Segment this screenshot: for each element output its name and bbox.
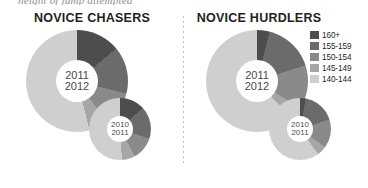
donut-center-line2: 2012 <box>65 81 89 92</box>
donut-center-line2: 2011 <box>291 129 308 137</box>
legend-item[interactable]: 140-144 <box>310 74 368 84</box>
chart-legend: 160+ 155-159 150-154 145-149 140-144 <box>310 30 368 85</box>
panel-novice-chasers: NOVICE CHASERS 2011 2012 2010 2011 <box>0 0 184 188</box>
page-title-novice-hurdlers: NOVICE HURDLERS <box>184 11 334 25</box>
donut-chart-hurdlers-2010-2011[interactable]: 2010 2011 <box>269 98 331 160</box>
donut-center-label: 2011 2012 <box>56 60 98 102</box>
panel-novice-hurdlers: NOVICE HURDLERS 2011 2012 2010 2011 160+… <box>184 0 368 188</box>
legend-swatch-icon <box>310 31 319 39</box>
donut-center-label: 2011 2012 <box>236 60 278 102</box>
legend-item[interactable]: 155-159 <box>310 41 368 51</box>
legend-item[interactable]: 150-154 <box>310 52 368 62</box>
legend-item-label: 140-144 <box>322 75 351 84</box>
page-title-novice-chasers: NOVICE CHASERS <box>0 11 184 25</box>
legend-item-label: 145-149 <box>322 64 351 73</box>
legend-item[interactable]: 160+ <box>310 30 368 40</box>
legend-item-label: 155-159 <box>322 42 351 51</box>
legend-swatch-icon <box>310 75 319 83</box>
donut-center-label: 2010 2011 <box>107 116 133 142</box>
legend-item-label: 150-154 <box>322 53 351 62</box>
donut-center-line2: 2011 <box>111 129 128 137</box>
legend-item-label: 160+ <box>322 31 340 40</box>
legend-swatch-icon <box>310 42 319 50</box>
donut-chart-chasers-2010-2011[interactable]: 2010 2011 <box>89 98 151 160</box>
legend-item[interactable]: 145-149 <box>310 63 368 73</box>
legend-swatch-icon <box>310 64 319 72</box>
donut-center-label: 2010 2011 <box>287 116 313 142</box>
legend-swatch-icon <box>310 53 319 61</box>
donut-center-line2: 2012 <box>245 81 269 92</box>
